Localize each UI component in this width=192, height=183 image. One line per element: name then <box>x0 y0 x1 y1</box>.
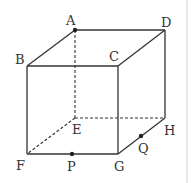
label-D: D <box>161 15 171 30</box>
label-C: C <box>109 49 119 64</box>
point-marker-A <box>73 28 77 32</box>
point-marker-Q <box>139 134 143 138</box>
point-marker-P <box>70 152 74 156</box>
vertex-labels: ABCDEFGHPQ <box>15 13 175 174</box>
edge-AB <box>27 30 75 66</box>
label-E: E <box>72 122 82 137</box>
label-P: P <box>67 159 76 174</box>
label-F: F <box>16 158 25 173</box>
label-A: A <box>65 13 76 28</box>
label-B: B <box>15 52 25 67</box>
label-Q: Q <box>138 141 149 156</box>
label-G: G <box>114 159 124 174</box>
edge-CD <box>118 30 165 66</box>
label-H: H <box>164 123 175 138</box>
hidden-edges <box>27 30 165 154</box>
hidden-edge-EF <box>27 118 75 154</box>
cube-diagram: ABCDEFGHPQ <box>0 0 192 183</box>
solid-edges <box>27 30 165 154</box>
